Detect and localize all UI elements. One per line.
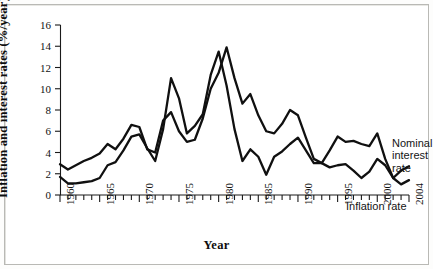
series-line-inflation-rate (60, 52, 409, 184)
x-tick-label: 1960 (64, 183, 76, 205)
y-tick-label: 12 (29, 63, 51, 74)
y-axis-title: Inflation and interest rates (%/year) (0, 18, 11, 198)
y-tick-label: 2 (29, 169, 51, 180)
y-tick-label: 6 (29, 126, 51, 137)
annotation-inflation-rate: Inflation rate (346, 200, 407, 212)
x-tick-label: 2004 (413, 183, 425, 205)
data-series (60, 47, 409, 184)
line-chart (60, 25, 409, 195)
y-tick-label: 4 (29, 148, 51, 159)
x-tick-label: 1980 (223, 183, 235, 205)
x-tick-label: 1990 (302, 183, 314, 205)
plot-area: 0246810121416 19601965197019751980198519… (60, 25, 409, 195)
x-axis-title: Year (0, 238, 433, 253)
x-tick-label: 1965 (104, 183, 116, 205)
y-tick-label: 8 (29, 105, 51, 116)
y-tick-label: 16 (29, 20, 51, 31)
x-tick-label: 1970 (143, 183, 155, 205)
y-tick-label: 14 (29, 41, 51, 52)
y-tick-label: 10 (29, 84, 51, 95)
figure-page: Inflation and interest rates (%/year) Ye… (0, 0, 433, 269)
axes (61, 25, 410, 195)
x-tick-label: 1985 (262, 183, 274, 205)
y-tick-label: 0 (29, 190, 51, 201)
x-tick-label: 1975 (183, 183, 195, 205)
annotation-nominal-interest-rate: Nominal interest rate (392, 137, 432, 174)
